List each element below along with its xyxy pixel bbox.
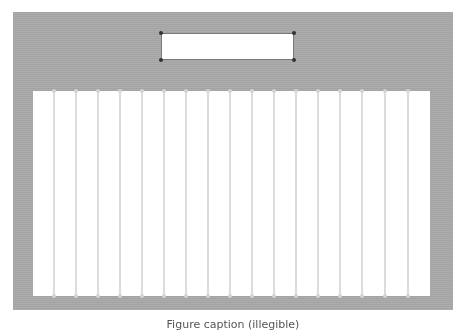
vertical-line xyxy=(273,91,275,296)
vertical-line xyxy=(75,91,77,296)
vertical-line xyxy=(339,91,341,296)
vertical-line xyxy=(141,91,143,296)
vertical-line xyxy=(251,91,253,296)
handle-top-left-icon[interactable] xyxy=(159,31,163,35)
vertical-line xyxy=(384,91,386,296)
top-selection-box[interactable] xyxy=(161,33,294,60)
vertical-line xyxy=(119,91,121,296)
vertical-line xyxy=(361,91,363,296)
vertical-line xyxy=(185,91,187,296)
handle-top-right-icon[interactable] xyxy=(292,31,296,35)
vertical-line xyxy=(317,91,319,296)
white-panel xyxy=(33,91,430,296)
vertical-line xyxy=(295,91,297,296)
vertical-line xyxy=(229,91,231,296)
handle-bottom-right-icon[interactable] xyxy=(292,58,296,62)
vertical-line xyxy=(207,91,209,296)
vertical-line xyxy=(97,91,99,296)
handle-bottom-left-icon[interactable] xyxy=(159,58,163,62)
vertical-line xyxy=(163,91,165,296)
figure-caption: Figure caption (illegible) xyxy=(0,318,466,331)
vertical-line xyxy=(53,91,55,296)
vertical-line xyxy=(407,91,409,296)
